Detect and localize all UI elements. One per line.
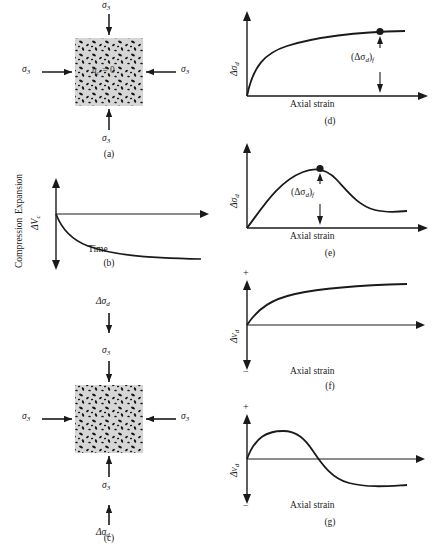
panel-g-xlabel: Axial strain (290, 500, 335, 510)
triaxial-test-figure: σ3 σ3 σ3 σ3 uc = 0 (a) Compres (0, 0, 436, 546)
panel-e-ylabel: Δσd (229, 194, 241, 208)
panel-f-ylabel: Δvd (229, 330, 241, 343)
panel-caption-a: (a) (89, 149, 129, 159)
panel-caption-g: (g) (310, 517, 350, 527)
panel-a: σ3 σ3 σ3 σ3 uc = 0 (a) (0, 0, 215, 168)
arrow-label-sigma3-bottominner-c: σ3 (102, 480, 110, 492)
failure-point-marker-d (376, 28, 383, 35)
panel-e-graphic (215, 132, 436, 265)
arrow-label-sigma3-topinner-c: σ3 (102, 345, 110, 357)
panel-d-ylabel: Δσd (229, 62, 241, 76)
panel-g-sign-negative: − (243, 500, 249, 511)
panel-d-xlabel: Axial strain (290, 99, 335, 109)
panel-e: Δσd (Δσd)f Axial strain (e) (215, 132, 436, 265)
panel-e-failure-annotation: (Δσd)f (291, 187, 314, 199)
panel-caption-c: (c) (89, 533, 129, 543)
panel-d: Δσd (Δσd)f Axial strain (d) (215, 0, 436, 132)
arrow-label-sigma3-bottom-a: σ3 (102, 133, 110, 145)
arrow-label-sigma3-right-a: σ3 (181, 64, 189, 76)
panel-c: Δσd σ3 σ3 Δσd σ3 σ3 (c) (0, 275, 215, 546)
specimen-pore-pressure-label-a: uc = 0 (92, 65, 115, 77)
panel-g-sign-positive: + (243, 401, 249, 412)
panel-g: + − Δvd Axial strain (g) (215, 395, 436, 546)
panel-caption-e: (e) (310, 248, 350, 258)
panel-f-xlabel: Axial strain (290, 366, 335, 376)
panel-g-ylabel: Δvd (229, 464, 241, 477)
panel-f-sign-positive: + (243, 267, 249, 278)
panel-caption-d: (d) (310, 116, 350, 126)
arrow-label-deviator-top-c: Δσd (96, 296, 110, 308)
panel-f-sign-negative: − (243, 366, 249, 377)
panel-b-ylabel-symbol: ΔVc (30, 216, 42, 231)
panel-b: Compression Expansion ΔVc Time (b) (0, 168, 215, 275)
failure-point-marker-e (316, 165, 323, 172)
arrow-label-sigma3-right-c: σ3 (181, 411, 189, 423)
panel-f: + − Δvd Axial strain (f) (215, 265, 436, 395)
arrow-label-sigma3-left-a: σ3 (22, 64, 30, 76)
curve-volume-change-consolidation (56, 214, 201, 259)
panel-caption-b: (b) (89, 258, 129, 268)
specimen-block-c (75, 385, 143, 453)
curve-deviator-stress-dense (247, 169, 407, 228)
curve-volume-change-shear-loose (247, 284, 407, 325)
panel-caption-f: (f) (310, 381, 350, 391)
panel-b-ylabel-compression: Compression (14, 218, 24, 268)
panel-b-xlabel: Time (88, 244, 108, 254)
panel-d-failure-annotation: (Δσd)f (351, 52, 374, 64)
panel-b-ylabel-expansion: Expansion (14, 174, 24, 214)
panel-d-graphic (215, 0, 436, 132)
panel-e-xlabel: Axial strain (290, 231, 335, 241)
arrow-label-sigma3-top-a: σ3 (102, 0, 110, 12)
arrow-label-sigma3-left-c: σ3 (22, 411, 30, 423)
